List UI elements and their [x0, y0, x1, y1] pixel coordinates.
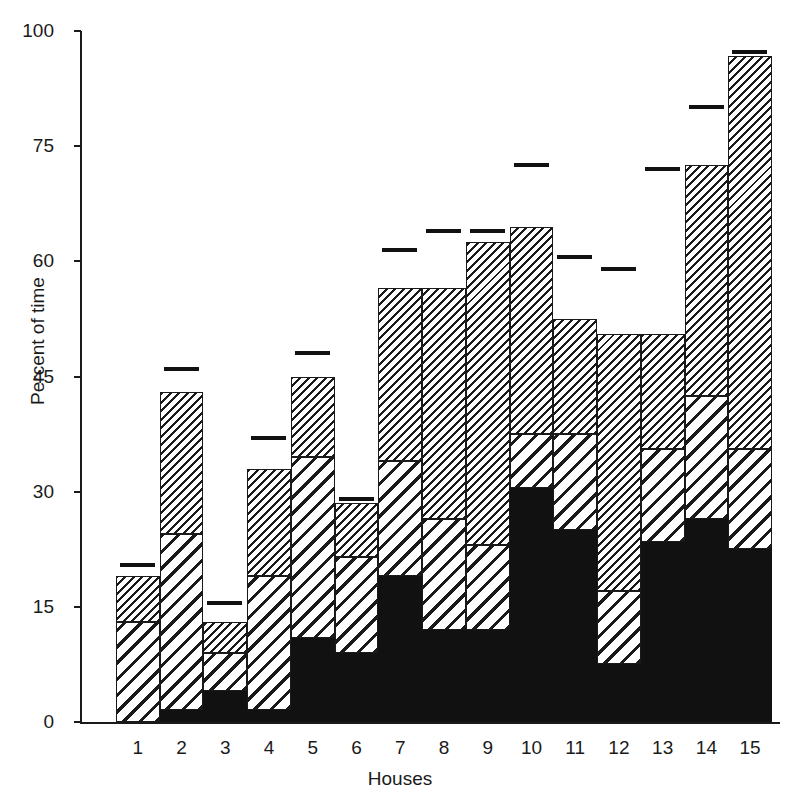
- bar-segment-solid-black: [466, 630, 510, 722]
- bar-group[interactable]: [728, 0, 772, 804]
- bar-segment-solid-black: [685, 519, 729, 722]
- bar-segment-solid-black: [422, 630, 466, 722]
- y-axis-line: [80, 31, 82, 724]
- reference-line-marker: [295, 351, 330, 355]
- reference-line-marker: [251, 436, 286, 440]
- bar-segment-solid-black: [641, 542, 685, 722]
- bar-segment-fine-diagonal-hatch: [335, 503, 379, 557]
- bar-segment-fine-diagonal-hatch: [116, 576, 160, 622]
- bar-segment-solid-black: [247, 710, 291, 722]
- bar-group[interactable]: [291, 0, 335, 804]
- y-axis-tick-label: 75: [10, 136, 54, 155]
- bar-group[interactable]: [466, 0, 510, 804]
- bar-group[interactable]: [335, 0, 379, 804]
- y-axis-tick-label: 15: [10, 597, 54, 616]
- bar-segment-fine-diagonal-hatch: [422, 288, 466, 518]
- bar-segment-solid-black: [160, 710, 204, 722]
- bar-segment-solid-black: [291, 638, 335, 722]
- reference-line-marker: [601, 267, 636, 271]
- x-axis-tick-label: 3: [203, 738, 247, 757]
- bar-segment-fine-diagonal-hatch: [510, 227, 554, 434]
- bar-group[interactable]: [160, 0, 204, 804]
- chart-root: Percent of time Houses 01530456075100123…: [0, 0, 800, 804]
- bar-segment-fine-diagonal-hatch: [247, 469, 291, 576]
- bar-segment-fine-diagonal-hatch: [685, 165, 729, 395]
- reference-line-marker: [426, 229, 461, 233]
- bar-segment-fine-diagonal-hatch: [466, 242, 510, 545]
- bar-segment-coarse-diagonal-hatch: [597, 591, 641, 664]
- plot-area: Percent of time Houses 01530456075100123…: [0, 0, 800, 804]
- bar-group[interactable]: [553, 0, 597, 804]
- reference-line-marker: [689, 105, 724, 109]
- x-axis-tick-label: 4: [247, 738, 291, 757]
- x-axis-tick-label: 2: [160, 738, 204, 757]
- bar-segment-coarse-diagonal-hatch: [685, 396, 729, 519]
- bar-segment-solid-black: [335, 653, 379, 722]
- bar-segment-coarse-diagonal-hatch: [116, 622, 160, 722]
- reference-line-marker: [164, 367, 199, 371]
- bar-group[interactable]: [116, 0, 160, 804]
- x-axis-tick-label: 6: [335, 738, 379, 757]
- bar-group[interactable]: [641, 0, 685, 804]
- bar-segment-solid-black: [597, 664, 641, 722]
- bar-group[interactable]: [247, 0, 291, 804]
- bar-group[interactable]: [422, 0, 466, 804]
- bar-segment-coarse-diagonal-hatch: [203, 653, 247, 691]
- bar-group[interactable]: [597, 0, 641, 804]
- reference-line-marker: [514, 163, 549, 167]
- bar-segment-fine-diagonal-hatch: [641, 334, 685, 449]
- bar-segment-fine-diagonal-hatch: [160, 392, 204, 534]
- bar-segment-fine-diagonal-hatch: [553, 319, 597, 434]
- reference-line-marker: [732, 50, 767, 54]
- reference-line-marker: [645, 167, 680, 171]
- bar-segment-coarse-diagonal-hatch: [160, 534, 204, 711]
- bar-segment-coarse-diagonal-hatch: [510, 434, 554, 488]
- y-axis-title: Percent of time: [27, 241, 49, 441]
- x-axis-tick-label: 10: [510, 738, 554, 757]
- bar-segment-solid-black: [203, 691, 247, 722]
- bar-segment-solid-black: [510, 488, 554, 722]
- bar-segment-coarse-diagonal-hatch: [466, 545, 510, 629]
- bar-segment-fine-diagonal-hatch: [203, 622, 247, 653]
- bar-segment-coarse-diagonal-hatch: [553, 434, 597, 530]
- x-axis-tick-label: 15: [728, 738, 772, 757]
- bar-segment-solid-black: [728, 549, 772, 722]
- bar-segment-coarse-diagonal-hatch: [641, 449, 685, 541]
- x-axis-tick-label: 14: [685, 738, 729, 757]
- bar-group[interactable]: [510, 0, 554, 804]
- x-axis-tick-label: 9: [466, 738, 510, 757]
- x-axis-tick-label: 12: [597, 738, 641, 757]
- bar-segment-coarse-diagonal-hatch: [335, 557, 379, 653]
- y-axis-tick-label: 100: [10, 21, 54, 40]
- reference-line-marker: [557, 255, 592, 259]
- bar-segment-coarse-diagonal-hatch: [728, 449, 772, 549]
- y-axis-tick-label: 45: [10, 367, 54, 386]
- bar-segment-fine-diagonal-hatch: [378, 288, 422, 461]
- bar-segment-coarse-diagonal-hatch: [247, 576, 291, 710]
- bar-group[interactable]: [203, 0, 247, 804]
- x-axis-tick-label: 11: [553, 738, 597, 757]
- x-axis-line: [80, 722, 780, 724]
- bar-group[interactable]: [378, 0, 422, 804]
- bar-segment-fine-diagonal-hatch: [597, 334, 641, 591]
- bar-group[interactable]: [685, 0, 729, 804]
- reference-line-marker: [207, 601, 242, 605]
- bar-segment-solid-black: [553, 530, 597, 722]
- bar-segment-coarse-diagonal-hatch: [378, 461, 422, 576]
- reference-line-marker: [120, 563, 155, 567]
- y-axis-tick-label: 0: [10, 712, 54, 731]
- bar-segment-fine-diagonal-hatch: [728, 56, 772, 449]
- y-axis-tick-label: 30: [10, 482, 54, 501]
- reference-line-marker: [339, 497, 374, 501]
- y-axis-tick-label: 60: [10, 251, 54, 270]
- x-axis-tick-label: 8: [422, 738, 466, 757]
- x-axis-tick-label: 1: [116, 738, 160, 757]
- reference-line-marker: [382, 248, 417, 252]
- bar-segment-solid-black: [378, 576, 422, 722]
- bar-segment-fine-diagonal-hatch: [291, 377, 335, 458]
- x-axis-tick-label: 7: [378, 738, 422, 757]
- x-axis-tick-label: 13: [641, 738, 685, 757]
- bar-segment-coarse-diagonal-hatch: [291, 457, 335, 637]
- bar-segment-coarse-diagonal-hatch: [422, 519, 466, 630]
- reference-line-marker: [470, 229, 505, 233]
